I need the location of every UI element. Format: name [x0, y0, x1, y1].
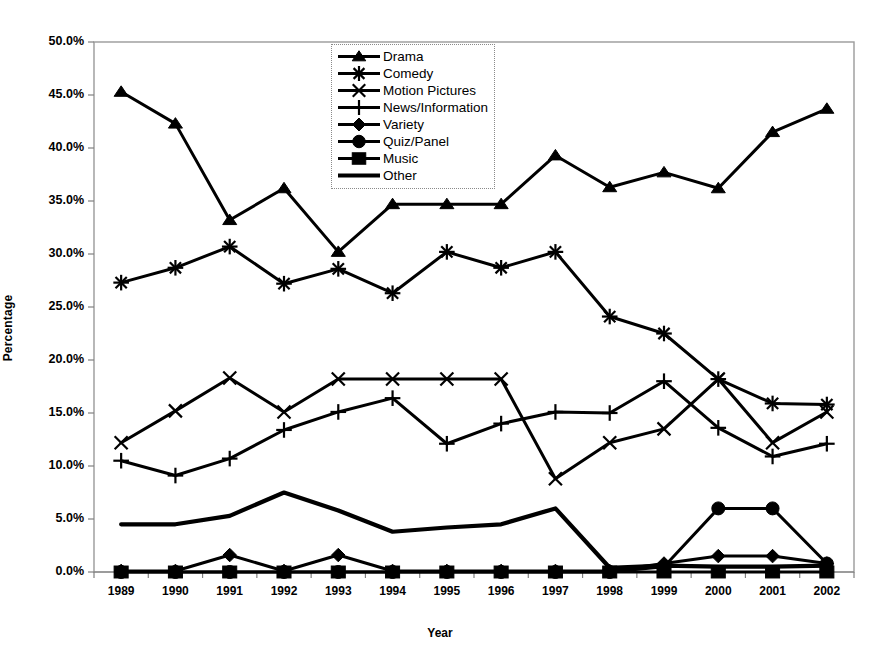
legend-item-label: Drama — [383, 50, 424, 64]
data-point-asterisk — [276, 276, 292, 292]
data-point-square — [114, 566, 128, 578]
data-point-square — [352, 153, 366, 164]
data-point-diamond — [766, 549, 780, 563]
data-point-asterisk — [439, 244, 455, 260]
data-point-asterisk — [656, 326, 672, 342]
line-chart: Percentage Year 50.0%45.0%40.0%35.0%30.0… — [0, 0, 880, 657]
data-point-cross — [766, 436, 779, 449]
data-point-asterisk — [168, 260, 184, 276]
legend-item-label: Quiz/Panel — [383, 135, 449, 149]
legend-item-variety[interactable]: Variety — [337, 116, 488, 133]
legend-item-label: Motion Pictures — [383, 84, 476, 98]
data-point-plus — [352, 100, 367, 115]
data-point-plus — [168, 468, 184, 484]
legend-item-label: News/Information — [383, 101, 488, 115]
legend-item-label: Variety — [383, 118, 424, 132]
data-point-triangle — [114, 86, 128, 96]
data-point-cross — [115, 436, 128, 449]
data-point-cross — [549, 472, 562, 485]
legend-marker-none-icon — [337, 168, 381, 183]
data-point-asterisk — [765, 396, 781, 412]
data-point-plus — [493, 416, 509, 432]
chart-legend: DramaComedyMotion PicturesNews/Informati… — [331, 44, 495, 189]
data-point-plus — [602, 405, 618, 421]
data-point-asterisk — [493, 260, 509, 276]
legend-item-quiz-panel[interactable]: Quiz/Panel — [337, 133, 488, 150]
data-point-asterisk — [113, 275, 129, 291]
legend-item-label: Comedy — [383, 67, 433, 81]
legend-item-comedy[interactable]: Comedy — [337, 65, 488, 82]
legend-marker-cross-icon — [337, 83, 381, 98]
data-point-square — [657, 566, 671, 578]
data-point-square — [168, 566, 182, 578]
data-point-cross — [223, 372, 236, 385]
data-point-diamond — [353, 118, 366, 131]
data-point-square — [820, 566, 834, 578]
data-point-cross — [278, 405, 291, 418]
data-point-square — [386, 566, 400, 578]
data-point-square — [223, 566, 237, 578]
legend-marker-plus-icon — [337, 100, 381, 115]
data-point-plus — [819, 436, 835, 452]
data-point-square — [603, 566, 617, 578]
data-point-asterisk — [352, 66, 367, 81]
data-point-plus — [276, 422, 292, 438]
data-point-asterisk — [385, 285, 401, 301]
data-point-square — [711, 566, 725, 578]
legend-item-motion-pictures[interactable]: Motion Pictures — [337, 82, 488, 99]
data-point-diamond — [332, 548, 346, 562]
legend-marker-diamond-icon — [337, 117, 381, 132]
data-point-asterisk — [548, 244, 564, 260]
legend-marker-circle-icon — [337, 134, 381, 149]
legend-item-music[interactable]: Music — [337, 150, 488, 167]
legend-item-label: Other — [383, 169, 417, 183]
data-point-square — [277, 566, 291, 578]
data-point-circle — [353, 135, 366, 148]
data-point-asterisk — [819, 397, 835, 413]
data-point-triangle — [820, 103, 834, 113]
data-point-asterisk — [222, 239, 238, 255]
legend-item-other[interactable]: Other — [337, 167, 488, 184]
data-point-cross — [169, 404, 182, 417]
data-point-asterisk — [330, 261, 346, 277]
data-point-triangle — [277, 182, 291, 192]
legend-marker-triangle-icon — [337, 49, 381, 64]
data-point-square — [494, 566, 508, 578]
data-point-circle — [712, 502, 725, 515]
data-point-triangle — [548, 149, 562, 159]
legend-marker-square-icon — [337, 151, 381, 166]
markers-comedy — [113, 239, 834, 413]
data-point-plus — [330, 404, 346, 420]
data-point-asterisk — [602, 309, 618, 325]
data-point-circle — [766, 502, 779, 515]
data-point-square — [766, 566, 780, 578]
data-point-square — [440, 566, 454, 578]
legend-item-drama[interactable]: Drama — [337, 48, 488, 65]
legend-item-label: Music — [383, 152, 418, 166]
legend-item-news-information[interactable]: News/Information — [337, 99, 488, 116]
data-point-square — [331, 566, 345, 578]
data-point-diamond — [223, 548, 237, 562]
data-point-diamond — [712, 549, 726, 563]
data-point-plus — [113, 453, 129, 469]
legend-marker-asterisk-icon — [337, 66, 381, 81]
data-point-triangle — [657, 166, 671, 176]
data-point-square — [548, 566, 562, 578]
data-point-plus — [765, 449, 781, 465]
data-point-plus — [222, 451, 238, 467]
data-point-plus — [548, 404, 564, 420]
